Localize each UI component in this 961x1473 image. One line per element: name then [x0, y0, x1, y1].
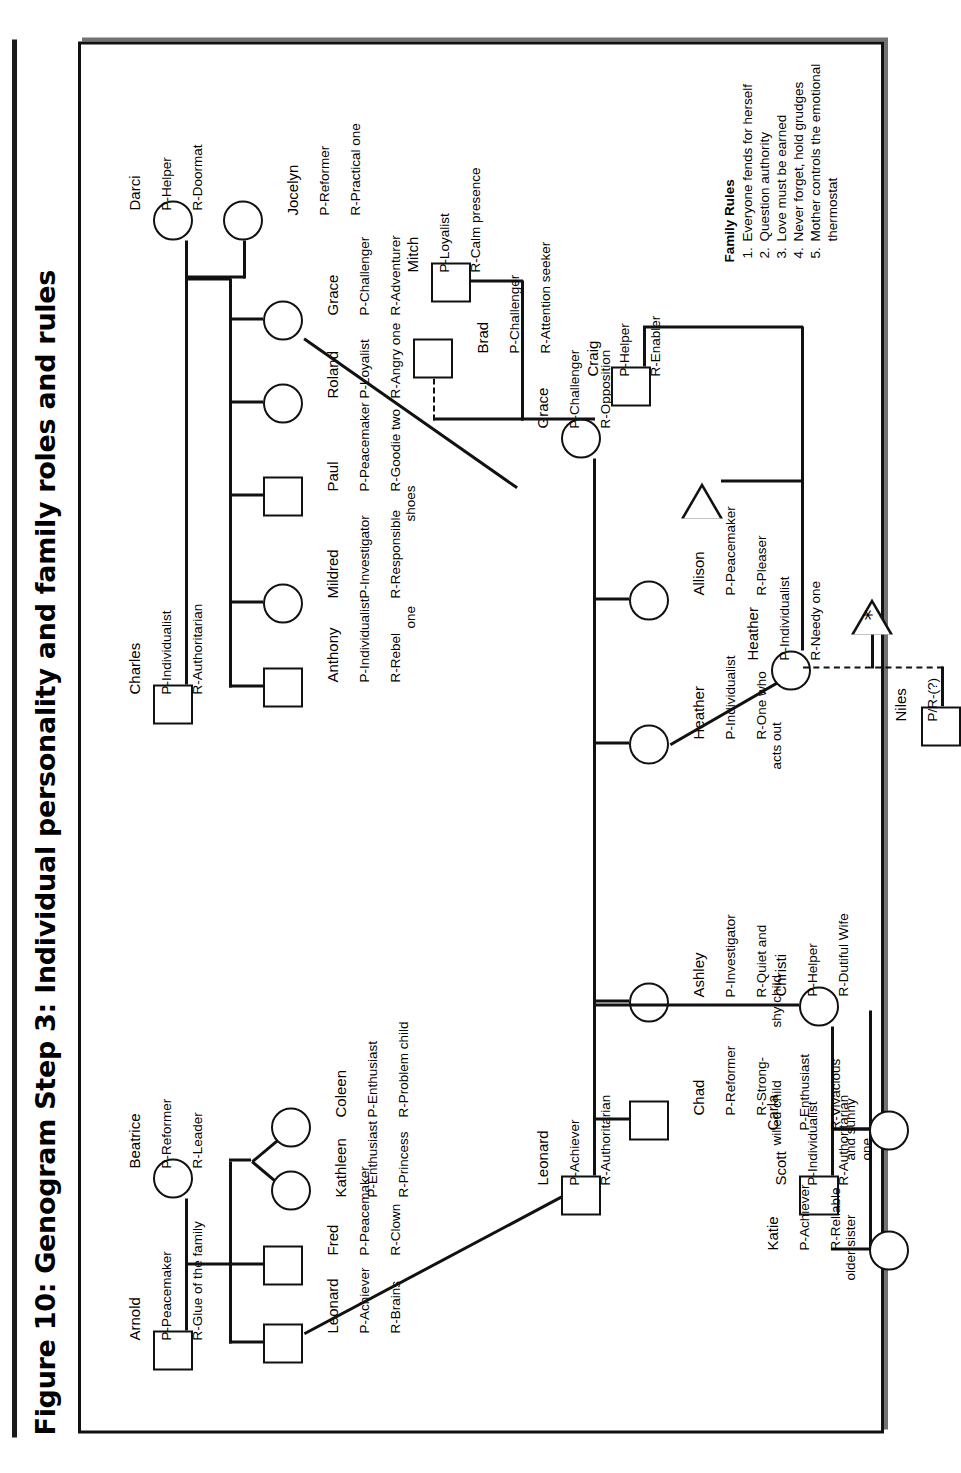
label-leonard-g3: Leonard P-Achiever R-Authoritarian	[519, 1094, 629, 1215]
label-beatrice: Beatrice P-Reformer R-Leader	[111, 1098, 221, 1198]
brad-hanger	[433, 418, 523, 421]
node-coleen[interactable]	[271, 1107, 311, 1147]
union-drop-grace-mitch	[521, 418, 595, 421]
node-jocelyn[interactable]	[223, 200, 263, 240]
child-stem-triangle-niles	[871, 632, 874, 668]
sibship-bar-charles	[229, 278, 232, 687]
union-line-charles-darci	[185, 240, 188, 684]
family-rule-item: Love must be earned	[773, 26, 790, 243]
label-niles: Niles P/R-(?)	[877, 677, 956, 751]
label-jocelyn: Jocelyn P-Reformer R-Practical one	[269, 123, 379, 245]
union-line-heather-craig-bottom	[801, 326, 804, 650]
label-christi: Christi P-Helper R-Dutiful Wife	[757, 913, 867, 1026]
child-stem-allison	[593, 598, 629, 601]
node-anthony[interactable]	[263, 667, 303, 707]
family-rule-item: Mother controls the emotional thermostat	[807, 26, 841, 243]
node-roland[interactable]	[263, 383, 303, 423]
child-stem-leonard-g2	[229, 1341, 263, 1344]
dashed-link-brad	[433, 378, 435, 420]
genogram-frame: Arnold P-Peacemaker R-Glue of the family…	[78, 41, 884, 1433]
figure-title: Figure 10: Genogram Step 3: Individual p…	[30, 35, 61, 1435]
family-rule-item: Question authority	[756, 26, 773, 243]
label-carla: Carla P-Enthusiast R-Vivacious and sunny…	[749, 1053, 890, 1160]
child-stem-grace-g2	[229, 318, 263, 321]
child-stem-heather-g3	[593, 742, 629, 745]
child-stem-mildred	[229, 601, 263, 604]
family-rules-block: Family Rules Everyone fends for herself …	[721, 26, 841, 262]
label-craig: Craig P-Helper R-Enabler	[569, 315, 679, 406]
label-heather-g4: Heather P-Individualist R-Needy one	[729, 576, 839, 690]
node-chad[interactable]	[629, 1100, 669, 1140]
label-mildred: Mildred P-Investigator R-Responsible one	[309, 509, 434, 628]
node-ashley[interactable]	[629, 982, 669, 1022]
child-stem-jocelyn	[185, 276, 245, 279]
label-katie: Katie P-Achiever R-Reliable older sister	[749, 1184, 874, 1280]
title-top-rule	[12, 39, 17, 1437]
node-mildred[interactable]	[263, 583, 303, 623]
child-stem-chad	[593, 1118, 629, 1121]
node-fred[interactable]	[263, 1245, 303, 1285]
family-rule-item: Never forget, hold grudges	[790, 26, 807, 243]
union-line-heather-craig-side	[643, 326, 803, 329]
label-brad: Brad P-Challenger R-Attention seeker	[459, 241, 569, 383]
sibship-drop-arnold	[185, 1263, 231, 1266]
twin-stem	[229, 1159, 251, 1162]
node-kathleen[interactable]	[271, 1170, 311, 1210]
child-connector-jocelyn	[243, 240, 246, 278]
node-paul[interactable]	[263, 476, 303, 516]
family-rule-item: Everyone fends for herself	[739, 26, 756, 243]
child-stem-triangle-craig	[721, 480, 803, 483]
node-brad[interactable]	[413, 338, 453, 378]
child-stem-anthony	[229, 685, 263, 688]
family-rules-heading: Family Rules	[721, 26, 738, 262]
family-rules-list: Everyone fends for herself Question auth…	[739, 26, 841, 262]
child-stem-fred	[229, 1263, 263, 1266]
node-allison[interactable]	[629, 580, 669, 620]
label-darci: Darci P-Helper R-Doormat	[111, 144, 221, 240]
label-kathleen: Kathleen P-Enthusiast R-Princess	[317, 1120, 427, 1227]
node-katie[interactable]	[869, 1230, 909, 1270]
child-stem-roland	[229, 401, 263, 404]
union-line-heather-craig-top	[643, 326, 646, 366]
node-heather-g3[interactable]	[629, 724, 669, 764]
christi-parent-stem	[593, 1004, 799, 1007]
sibship-bar-arnold	[229, 1161, 232, 1343]
child-stem-paul	[229, 494, 263, 497]
asterisk-marker: *	[861, 609, 883, 620]
label-charles: Charles P-Individualist R-Authoritarian	[111, 603, 221, 724]
node-leonard-g2[interactable]	[263, 1323, 303, 1363]
label-arnold: Arnold P-Peacemaker R-Glue of the family	[111, 1221, 221, 1370]
union-line-leonard-grace	[593, 458, 596, 1175]
child-stem-ashley	[593, 1000, 629, 1003]
node-grace-g2[interactable]	[263, 300, 303, 340]
